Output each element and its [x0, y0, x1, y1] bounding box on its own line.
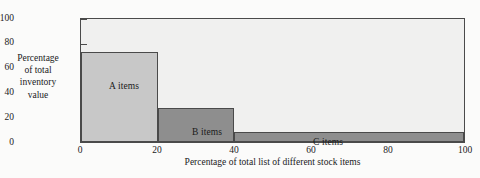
bar-a-items — [81, 52, 158, 142]
y-tick-label-100: 100 — [0, 14, 14, 24]
x-tick-label-20: 20 — [142, 146, 172, 156]
plot-area: A items B items C items — [80, 18, 465, 143]
y-tick-label-20: 20 — [0, 113, 14, 123]
y-tick-label-40: 40 — [0, 88, 14, 98]
x-tick-label-40: 40 — [219, 146, 249, 156]
bar-c-items — [234, 132, 464, 142]
y-tick-mark-80 — [81, 44, 87, 45]
x-tick-label-80: 80 — [373, 146, 403, 156]
x-axis-title: Percentage of total list of different st… — [80, 157, 465, 167]
x-tick-label-60: 60 — [296, 146, 326, 156]
y-tick-label-80: 80 — [0, 38, 14, 48]
x-tick-label-0: 0 — [65, 146, 95, 156]
bar-label-c-items: C items — [313, 137, 343, 147]
y-tick-mark-100 — [81, 19, 87, 20]
abc-inventory-analysis-chart: Percentage of total inventory value 0 20… — [0, 0, 480, 178]
bar-label-b-items: B items — [192, 127, 222, 137]
y-tick-label-0: 0 — [0, 138, 14, 148]
x-tick-label-100: 100 — [450, 146, 480, 156]
bar-label-a-items: A items — [109, 81, 139, 91]
y-tick-label-60: 60 — [0, 63, 14, 73]
